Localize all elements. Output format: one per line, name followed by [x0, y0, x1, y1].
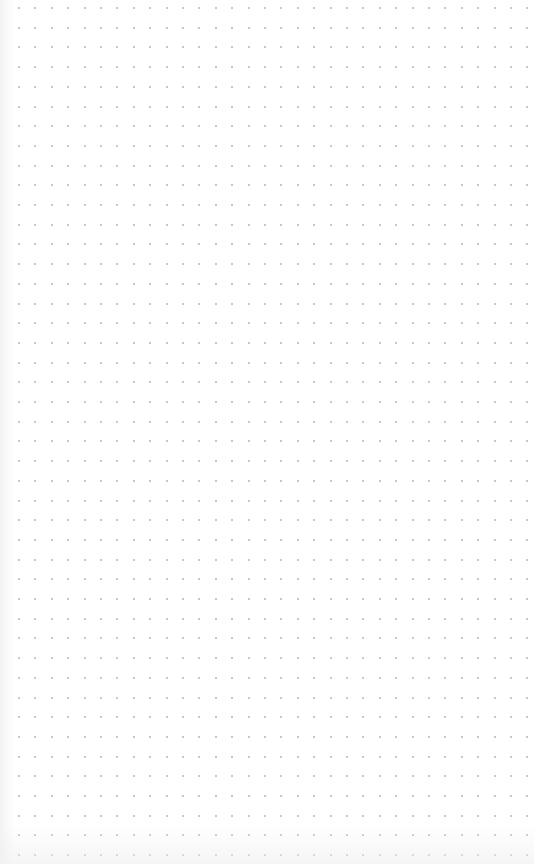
- grid-dot: [379, 46, 381, 48]
- grid-dot: [116, 46, 118, 48]
- grid-dot: [166, 815, 168, 817]
- grid-dot: [346, 480, 348, 482]
- grid-dot: [330, 637, 332, 639]
- grid-dot: [395, 421, 397, 423]
- grid-dot: [133, 854, 135, 856]
- grid-dot: [346, 539, 348, 541]
- grid-dot: [346, 637, 348, 639]
- grid-dot: [412, 322, 414, 324]
- grid-dot: [67, 578, 69, 580]
- grid-dot: [84, 224, 86, 226]
- grid-dot: [297, 539, 299, 541]
- grid-dot: [133, 421, 135, 423]
- grid-dot: [182, 716, 184, 718]
- grid-dot: [51, 834, 53, 836]
- grid-dot: [379, 165, 381, 167]
- grid-dot: [510, 401, 512, 403]
- grid-dot: [67, 165, 69, 167]
- grid-dot: [149, 460, 151, 462]
- grid-dot: [182, 834, 184, 836]
- grid-dot: [412, 145, 414, 147]
- grid-dot: [362, 519, 364, 521]
- grid-dot: [297, 106, 299, 108]
- grid-dot: [280, 854, 282, 856]
- grid-dot: [362, 480, 364, 482]
- grid-dot: [494, 303, 496, 305]
- grid-dot: [215, 736, 217, 738]
- grid-dot: [280, 637, 282, 639]
- grid-dot: [444, 716, 446, 718]
- grid-dot: [67, 460, 69, 462]
- grid-dot: [149, 303, 151, 305]
- grid-dot: [494, 578, 496, 580]
- grid-dot: [412, 303, 414, 305]
- grid-dot: [264, 303, 266, 305]
- grid-dot: [510, 86, 512, 88]
- grid-dot: [526, 322, 528, 324]
- grid-dot: [215, 401, 217, 403]
- grid-dot: [149, 756, 151, 758]
- grid-dot: [149, 224, 151, 226]
- grid-dot: [248, 204, 250, 206]
- grid-dot: [313, 637, 315, 639]
- grid-dot: [395, 66, 397, 68]
- grid-dot: [18, 460, 20, 462]
- grid-dot: [84, 145, 86, 147]
- grid-dot: [51, 401, 53, 403]
- grid-dot: [379, 795, 381, 797]
- grid-dot: [510, 795, 512, 797]
- grid-dot: [84, 657, 86, 659]
- dotted-grid-canvas[interactable]: [0, 0, 534, 864]
- grid-dot: [477, 736, 479, 738]
- grid-dot: [428, 145, 430, 147]
- grid-dot: [34, 421, 36, 423]
- grid-dot: [280, 677, 282, 679]
- grid-dot: [526, 854, 528, 856]
- grid-dot: [461, 854, 463, 856]
- grid-dot: [510, 736, 512, 738]
- grid-dot: [198, 834, 200, 836]
- grid-dot: [18, 697, 20, 699]
- grid-dot: [100, 342, 102, 344]
- grid-dot: [215, 775, 217, 777]
- grid-dot: [51, 381, 53, 383]
- grid-dot: [412, 224, 414, 226]
- grid-dot: [477, 618, 479, 620]
- grid-dot: [379, 440, 381, 442]
- grid-dot: [346, 342, 348, 344]
- grid-dot: [428, 834, 430, 836]
- grid-dot: [100, 401, 102, 403]
- grid-dot: [84, 618, 86, 620]
- grid-dot: [51, 7, 53, 9]
- grid-dot: [198, 401, 200, 403]
- grid-dot: [215, 460, 217, 462]
- grid-dot: [346, 440, 348, 442]
- grid-dot: [428, 283, 430, 285]
- grid-dot: [84, 775, 86, 777]
- grid-dot: [330, 145, 332, 147]
- grid-dot: [248, 775, 250, 777]
- grid-dot: [182, 815, 184, 817]
- grid-dot: [461, 283, 463, 285]
- grid-dot: [379, 677, 381, 679]
- grid-dot: [231, 677, 233, 679]
- grid-dot: [510, 46, 512, 48]
- grid-dot: [313, 578, 315, 580]
- grid-dot: [362, 421, 364, 423]
- grid-dot: [494, 756, 496, 758]
- grid-dot: [100, 66, 102, 68]
- grid-dot: [100, 46, 102, 48]
- grid-dot: [248, 283, 250, 285]
- grid-dot: [182, 480, 184, 482]
- grid-dot: [510, 322, 512, 324]
- grid-dot: [494, 362, 496, 364]
- grid-dot: [379, 500, 381, 502]
- grid-dot: [379, 342, 381, 344]
- grid-dot: [198, 539, 200, 541]
- grid-dot: [149, 145, 151, 147]
- grid-dot: [494, 795, 496, 797]
- grid-dot: [461, 834, 463, 836]
- grid-dot: [51, 145, 53, 147]
- grid-dot: [51, 598, 53, 600]
- grid-dot: [215, 598, 217, 600]
